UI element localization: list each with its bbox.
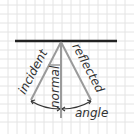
normal-label: normal bbox=[48, 65, 62, 108]
angle-label: angle bbox=[75, 106, 108, 120]
diagram-canvas: incident normal reflected angle bbox=[0, 0, 134, 134]
reflection-diagram: incident normal reflected angle bbox=[0, 0, 134, 134]
grid bbox=[0, 0, 134, 134]
